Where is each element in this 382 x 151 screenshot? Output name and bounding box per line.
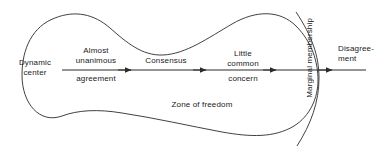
consensus-text: Consensus xyxy=(145,56,186,66)
diagram-graphics xyxy=(0,0,382,151)
label-marginal-membership: Marginal membership xyxy=(305,18,314,98)
label-consensus: Consensus xyxy=(145,56,186,66)
little-line-1: Little xyxy=(227,49,259,59)
dynamic-center-line-1: Dynamic xyxy=(19,58,51,68)
label-disagreement: Disagree- ment xyxy=(338,44,374,64)
diagram-canvas: Dynamic center Almost unanimous agreemen… xyxy=(0,0,382,151)
label-zone-of-freedom: Zone of freedom xyxy=(172,100,233,110)
almost-line-3: agreement xyxy=(76,74,116,84)
disagreement-line-2: ment xyxy=(338,54,374,64)
label-concern: concern xyxy=(228,74,258,84)
label-agreement: agreement xyxy=(76,74,116,84)
zone-of-freedom-text: Zone of freedom xyxy=(172,100,233,110)
little-line-3: concern xyxy=(228,74,258,84)
dynamic-center-line-2: center xyxy=(19,68,51,78)
label-dynamic-center: Dynamic center xyxy=(19,58,51,78)
little-line-2: common xyxy=(227,59,259,69)
disagreement-line-1: Disagree- xyxy=(338,44,374,54)
label-little-common: Little common xyxy=(227,49,259,69)
label-almost-unanimous-agreement: Almost unanimous xyxy=(76,46,117,66)
almost-line-2: unanimous xyxy=(76,56,117,66)
almost-line-1: Almost xyxy=(76,46,117,56)
zone-outline-shape xyxy=(22,14,318,136)
